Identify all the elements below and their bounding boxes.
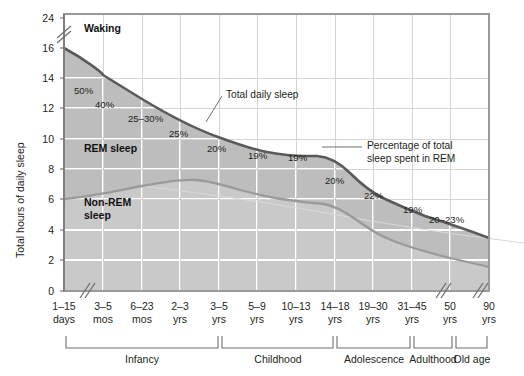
annotation-rem-percentage-line1: Percentage of total bbox=[367, 140, 455, 153]
band-label-non-rem-line2: sleep bbox=[84, 209, 131, 222]
life-stage-brackets bbox=[66, 336, 487, 348]
x-tick-line2: yrs bbox=[466, 313, 512, 326]
y-tick-16: 16 bbox=[30, 42, 54, 54]
life-stage-label-infancy: Infancy bbox=[112, 353, 172, 365]
band-label-waking: Waking bbox=[84, 22, 121, 35]
y-tick-2: 2 bbox=[30, 254, 54, 266]
y-tick-14: 14 bbox=[30, 72, 54, 84]
band-label-non-rem-sleep: Non-REM sleep bbox=[84, 196, 131, 221]
band-label-rem-sleep: REM sleep bbox=[84, 142, 137, 155]
rem-pct-label-9: 19% bbox=[403, 204, 422, 215]
y-tick-4: 4 bbox=[30, 224, 54, 236]
y-tick-24: 24 bbox=[30, 12, 54, 24]
annotation-rem-percentage: Percentage of total sleep spent in REM bbox=[367, 140, 455, 165]
life-stage-label-childhood: Childhood bbox=[247, 353, 309, 365]
life-stage-label-old-age: Old age bbox=[448, 353, 496, 365]
annotation-rem-percentage-line2: sleep spent in REM bbox=[367, 153, 455, 166]
rem-pct-label-6: 19% bbox=[288, 152, 307, 163]
rem-pct-label-4: 20% bbox=[207, 143, 226, 154]
y-tick-6: 6 bbox=[30, 193, 54, 205]
bracket-adulthood bbox=[414, 336, 452, 348]
rem-pct-label-2: 25–30% bbox=[128, 113, 163, 124]
y-tick-8: 8 bbox=[30, 163, 54, 175]
sleep-across-lifespan-chart: Total hours of daily sleep 24 16 14 12 1… bbox=[0, 0, 524, 376]
rem-pct-label-7: 20% bbox=[325, 175, 344, 186]
y-tick-10: 10 bbox=[30, 133, 54, 145]
rem-pct-label-1: 40% bbox=[95, 99, 114, 110]
band-label-non-rem-line1: Non-REM bbox=[84, 196, 131, 209]
annotation-total-daily-sleep: Total daily sleep bbox=[226, 89, 299, 102]
life-stage-label-adolescence: Adolescence bbox=[340, 353, 408, 365]
x-tick-line1: 90 bbox=[466, 300, 512, 313]
bracket-adolescence bbox=[337, 336, 410, 348]
bracket-childhood bbox=[222, 336, 333, 348]
y-axis-title: Total hours of daily sleep bbox=[14, 142, 26, 258]
rem-pct-label-8: 22% bbox=[364, 190, 383, 201]
rem-pct-label-5: 19% bbox=[248, 150, 267, 161]
bracket-old-age bbox=[456, 336, 487, 348]
y-tick-12: 12 bbox=[30, 102, 54, 114]
rem-pct-label-3: 25% bbox=[169, 128, 188, 139]
y-tick-0: 0 bbox=[30, 285, 54, 297]
x-tick-90-yrs: 90 yrs bbox=[466, 300, 512, 325]
rem-pct-label-10: 20–23% bbox=[429, 214, 464, 225]
bracket-infancy bbox=[66, 336, 218, 348]
rem-pct-label-0: 50% bbox=[74, 85, 93, 96]
